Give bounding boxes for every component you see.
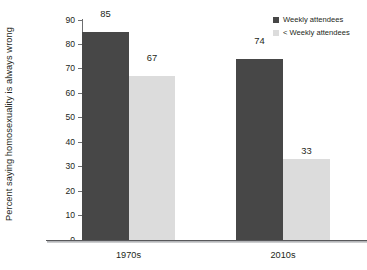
x-category-label-1970s: 1970s — [82, 250, 175, 260]
bar-value-1970s-less-weekly: 67 — [129, 52, 175, 63]
y-tick-label-90: 90 — [65, 15, 75, 26]
bar-2010s-less-weekly[interactable] — [283, 159, 330, 240]
y-tick-60: 60 — [42, 88, 82, 99]
y-tick-label-50: 50 — [65, 112, 75, 123]
y-tick-label-10: 10 — [65, 210, 75, 221]
y-axis-title: Percent saying homosexuality is always w… — [0, 0, 18, 248]
legend-swatch-icon-less-weekly-attendees — [273, 30, 279, 36]
bar-value-1970s-weekly: 85 — [82, 8, 129, 19]
y-tick-10: 10 — [42, 210, 82, 221]
y-tick-40: 40 — [42, 137, 82, 148]
y-tick-label-80: 80 — [65, 39, 75, 50]
legend-item-less-weekly-attendees[interactable]: < Weekly attendees — [273, 27, 367, 38]
y-tick-30: 30 — [42, 161, 82, 172]
y-tick-90: 90 — [42, 15, 82, 26]
bar-2010s-weekly[interactable] — [236, 59, 283, 240]
bar-chart: Percent saying homosexuality is always w… — [0, 0, 367, 270]
y-tick-80: 80 — [42, 39, 82, 50]
plot-area: 85 67 74 33 — [82, 20, 340, 240]
legend-swatch-icon-weekly-attendees — [273, 17, 279, 23]
legend-label-weekly-attendees: Weekly attendees — [283, 14, 343, 25]
y-axis-title-label: Percent saying homosexuality is always w… — [4, 27, 14, 221]
bar-1970s-weekly[interactable] — [82, 32, 129, 240]
y-tick-label-70: 70 — [65, 63, 75, 74]
y-tick-label-20: 20 — [65, 186, 75, 197]
legend: Weekly attendees < Weekly attendees — [273, 14, 367, 40]
legend-label-less-weekly-attendees: < Weekly attendees — [283, 27, 350, 38]
bar-1970s-less-weekly[interactable] — [129, 76, 175, 240]
y-tick-label-30: 30 — [65, 161, 75, 172]
x-category-label-2010s: 2010s — [236, 250, 330, 260]
y-tick-70: 70 — [42, 63, 82, 74]
bar-value-2010s-less-weekly: 33 — [283, 145, 330, 156]
legend-item-weekly-attendees[interactable]: Weekly attendees — [273, 14, 367, 25]
y-tick-label-60: 60 — [65, 88, 75, 99]
y-tick-50: 50 — [42, 112, 82, 123]
y-tick-label-40: 40 — [65, 137, 75, 148]
y-tick-20: 20 — [42, 186, 82, 197]
x-axis-shadow — [47, 241, 367, 243]
